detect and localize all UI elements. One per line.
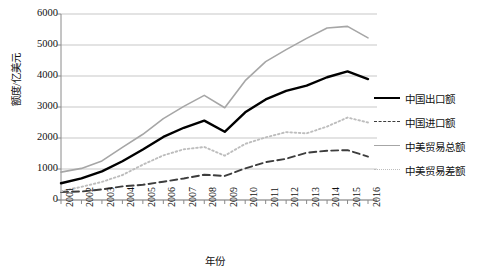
x-tick-label: 2015 <box>352 187 362 207</box>
x-axis-title: 年份 <box>60 253 370 268</box>
legend-item-1[interactable]: 中国进口额 <box>374 110 477 134</box>
legend-item-label: 中国出口额 <box>405 91 455 106</box>
x-tick-label: 2005 <box>147 187 157 207</box>
x-tick-label: 2006 <box>167 187 177 207</box>
x-tick-label: 2012 <box>290 187 300 207</box>
legend-item-label: 中国进口额 <box>405 115 455 130</box>
solid-gray-line-icon <box>374 141 400 151</box>
x-tick-label: 2013 <box>311 187 321 207</box>
x-tick-label: 2008 <box>208 187 218 207</box>
x-tick-label: 2014 <box>331 187 341 207</box>
legend-item-label: 中美贸易总额 <box>405 139 465 154</box>
x-tick-label: 2016 <box>372 187 382 207</box>
legend-item-label: 中美贸易差额 <box>405 163 465 178</box>
x-tick-label: 2001 <box>65 187 75 207</box>
x-tick-label: 2004 <box>126 187 136 207</box>
x-tick-label: 2009 <box>229 187 239 207</box>
legend-item-0[interactable]: 中国出口额 <box>374 86 477 110</box>
x-tick-label: 2010 <box>249 187 259 207</box>
x-tick-label: 2011 <box>270 187 280 207</box>
dashed-black-line-icon <box>374 117 400 127</box>
dotted-gray-line-icon <box>374 165 400 175</box>
x-tick-label: 2007 <box>188 187 198 207</box>
x-tick-label: 2003 <box>106 187 116 207</box>
x-tick-label: 2002 <box>85 187 95 207</box>
legend-item-2[interactable]: 中美贸易总额 <box>374 134 477 158</box>
legend-item-3[interactable]: 中美贸易差额 <box>374 158 477 182</box>
chart-container: 额度/亿美元 0100020003000400050006000 2001200… <box>0 0 477 280</box>
chart-legend: 中国出口额中国进口额中美贸易总额中美贸易差额 <box>374 86 477 182</box>
solid-black-line-icon <box>374 93 400 103</box>
